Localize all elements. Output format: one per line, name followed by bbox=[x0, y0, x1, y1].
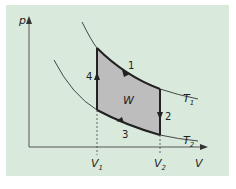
t2-label: T2 bbox=[183, 134, 195, 149]
step-4-label: 4 bbox=[86, 71, 92, 82]
step-3-label: 3 bbox=[122, 129, 128, 140]
p-axis-label: p bbox=[18, 14, 26, 27]
v-axis-label: V bbox=[195, 157, 204, 170]
pv-diagram: p V V1 V2 T1 T2 W 1 2 3 4 bbox=[0, 0, 236, 189]
step-1-label: 1 bbox=[128, 60, 134, 71]
y-axis-arrow-icon bbox=[26, 16, 32, 24]
v1-label: V1 bbox=[91, 157, 103, 172]
step-2-label: 2 bbox=[165, 111, 171, 122]
v2-label: V2 bbox=[154, 157, 167, 172]
x-axis-arrow-icon bbox=[200, 144, 208, 150]
work-label: W bbox=[123, 94, 135, 107]
t1-label: T1 bbox=[183, 92, 194, 107]
